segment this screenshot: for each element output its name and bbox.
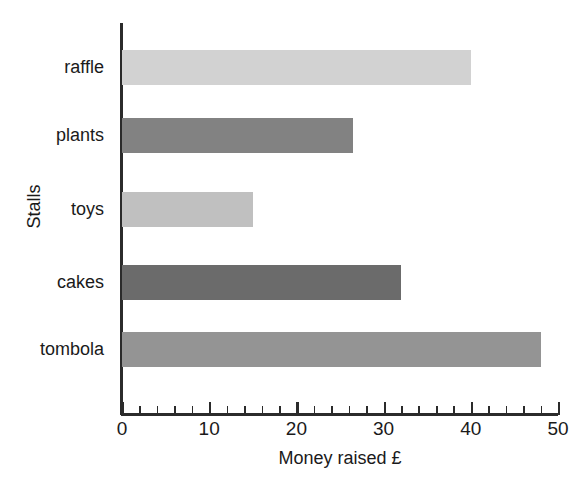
x-tick-label-20: 20: [274, 418, 318, 440]
x-tick-label-10: 10: [187, 418, 231, 440]
x-tick-major: [296, 402, 298, 415]
bar-cakes: [122, 265, 401, 300]
x-axis-title: Money raised £: [122, 448, 558, 469]
x-tick-minor: [506, 406, 508, 415]
x-tick-minor: [139, 406, 141, 415]
x-tick-minor: [401, 406, 403, 415]
x-tick-minor: [279, 406, 281, 415]
x-tick-major: [122, 402, 124, 415]
x-tick-label-0: 0: [100, 418, 144, 440]
x-tick-minor: [192, 406, 194, 415]
category-label-toys: toys: [71, 192, 104, 227]
x-tick-minor: [244, 406, 246, 415]
x-tick-major: [471, 402, 473, 415]
category-label-tombola: tombola: [40, 332, 104, 367]
x-tick-minor: [314, 406, 316, 415]
x-tick-major: [209, 402, 211, 415]
bar-row-tombola: [122, 332, 541, 367]
category-label-cakes: cakes: [57, 265, 104, 300]
bar-toys: [122, 192, 253, 227]
y-axis-category-labels: raffle plants toys cakes tombola: [0, 23, 112, 401]
x-tick-minor: [349, 406, 351, 415]
bar-plants: [122, 118, 353, 153]
x-tick-minor: [453, 406, 455, 415]
x-tick-major: [558, 402, 560, 415]
x-tick-minor: [488, 406, 490, 415]
x-tick-label-50: 50: [536, 418, 580, 440]
x-axis-ticks: [122, 402, 558, 416]
x-tick-minor: [227, 406, 229, 415]
x-tick-minor: [262, 406, 264, 415]
category-label-raffle: raffle: [64, 50, 104, 85]
category-label-plants: plants: [56, 118, 104, 153]
bar-row-plants: [122, 118, 353, 153]
bar-row-raffle: [122, 50, 471, 85]
x-tick-minor: [523, 406, 525, 415]
x-tick-minor: [541, 406, 543, 415]
x-tick-major: [384, 402, 386, 415]
x-tick-minor: [418, 406, 420, 415]
x-tick-minor: [436, 406, 438, 415]
x-tick-label-40: 40: [449, 418, 493, 440]
bar-raffle: [122, 50, 471, 85]
x-tick-minor: [366, 406, 368, 415]
bar-row-cakes: [122, 265, 401, 300]
x-tick-label-30: 30: [362, 418, 406, 440]
bar-chart: Stalls raffle plants toys cakes tombola …: [0, 0, 586, 483]
x-tick-minor: [331, 406, 333, 415]
bar-tombola: [122, 332, 541, 367]
bar-row-toys: [122, 192, 253, 227]
x-tick-minor: [157, 406, 159, 415]
bars-layer: [122, 23, 558, 401]
x-tick-minor: [174, 406, 176, 415]
